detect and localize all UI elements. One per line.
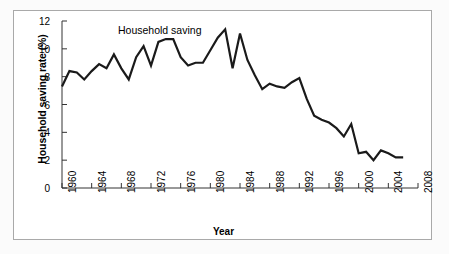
chart-plot [0, 0, 449, 254]
data-series-line [62, 29, 403, 160]
axis-lines [62, 21, 418, 188]
tick-marks [62, 21, 418, 188]
